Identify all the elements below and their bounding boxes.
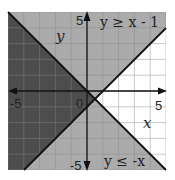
origin-label: 0 [76,96,83,111]
x-axis-label: x [143,114,152,132]
y-max-tick-label: 5 [76,13,83,28]
y-min-tick-label: -5 [70,158,82,173]
y-axis-label: y [55,27,65,45]
inequality-2-label: y ≤ -x [103,153,145,169]
inequality-graph: 5 -5 -5 5 0 y x y ≥ x - 1 y ≤ -x [0,0,175,180]
x-min-tick-label: -5 [10,96,22,111]
inequality-1-label: y ≥ x - 1 [99,14,159,30]
x-max-tick-label: 5 [155,98,162,113]
